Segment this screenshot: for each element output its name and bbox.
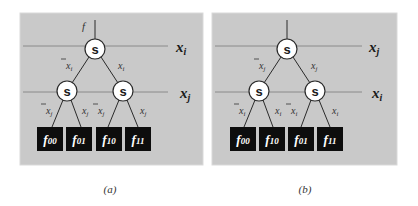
panel-a-leaf-2: f01 <box>66 127 92 151</box>
panel-b-leaf-3: f01 <box>288 127 314 151</box>
panel-a-leaf-4: f11 <box>125 127 151 151</box>
panel-b-node-root: s <box>277 39 297 59</box>
panel-b-caption: (b) <box>299 183 312 196</box>
panel-a-caption: (a) <box>104 183 117 196</box>
panel-b-leaf-1: f00 <box>230 127 256 151</box>
svg-text:s: s <box>119 84 126 99</box>
svg-text:s: s <box>63 84 70 99</box>
panel-b-leaf-2: f10 <box>259 127 285 151</box>
panel-a-leaf-3: f10 <box>96 127 122 151</box>
panel-a-node-left: s <box>57 81 77 101</box>
panel-b-node-right: s <box>305 81 325 101</box>
panel-a: xi xj f xi xi xj xj xj xj s <box>20 13 203 196</box>
panel-b: xj xi xj xj xi xi xi xi s s <box>212 13 397 196</box>
svg-text:s: s <box>311 84 318 99</box>
svg-text:s: s <box>91 42 98 57</box>
diagram-canvas: xi xj f xi xi xj xj xj xj s <box>0 0 418 206</box>
panel-b-leaf-4: f11 <box>317 127 343 151</box>
panel-b-node-left: s <box>249 81 269 101</box>
panel-a-node-right: s <box>113 81 133 101</box>
panel-a-leaf-1: f00 <box>37 127 63 151</box>
svg-text:s: s <box>255 84 262 99</box>
panel-a-node-root: s <box>85 39 105 59</box>
svg-text:s: s <box>283 42 290 57</box>
